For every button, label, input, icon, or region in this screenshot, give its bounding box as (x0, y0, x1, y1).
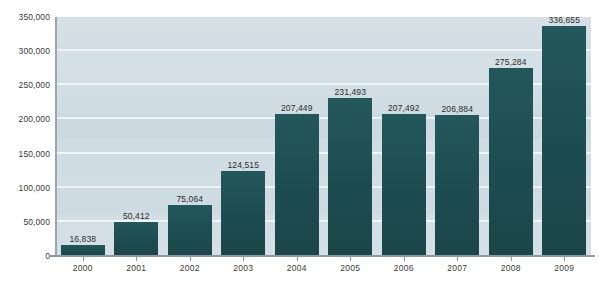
bar-slot (221, 17, 265, 256)
x-axis-tick-label: 2008 (481, 263, 541, 273)
y-axis-tick-label: 100,000 (0, 183, 50, 193)
bar-slot (168, 17, 212, 256)
y-axis-tick-label: 0 (0, 251, 50, 261)
bar[interactable] (435, 115, 479, 256)
bar[interactable] (221, 171, 265, 256)
bar-value-label: 275,284 (476, 57, 546, 67)
bar-value-label: 50,412 (101, 211, 171, 221)
bar-value-label: 16,838 (48, 234, 118, 244)
bar-slot (382, 17, 426, 256)
x-axis-tick-label: 2007 (427, 263, 487, 273)
x-axis-tick (564, 256, 565, 261)
y-axis-tick-label: 200,000 (0, 114, 50, 124)
x-axis-tick (457, 256, 458, 261)
y-axis-line (55, 17, 57, 257)
bar-value-label: 206,884 (422, 104, 492, 114)
x-axis-tick (404, 256, 405, 261)
x-axis-tick-label: 2006 (374, 263, 434, 273)
bar-slot (489, 17, 533, 256)
bar[interactable] (382, 114, 426, 256)
x-axis-tick-label: 2005 (320, 263, 380, 273)
bar-value-label: 336,655 (529, 15, 599, 25)
y-axis-tick-label: 150,000 (0, 149, 50, 159)
x-axis-tick (190, 256, 191, 261)
x-axis-tick-label: 2009 (534, 263, 594, 273)
x-axis-tick (83, 256, 84, 261)
bar-slot (61, 17, 105, 256)
bar[interactable] (275, 114, 319, 256)
chart-title-cropped (56, 0, 526, 2)
y-axis-tick-label: 250,000 (0, 80, 50, 90)
y-axis-tick-label: 350,000 (0, 12, 50, 22)
bar-value-label: 231,493 (315, 87, 385, 97)
bar[interactable] (168, 205, 212, 256)
bar-slot (435, 17, 479, 256)
x-axis-tick (243, 256, 244, 261)
x-axis-tick (297, 256, 298, 261)
x-axis-tick-label: 2002 (160, 263, 220, 273)
x-axis-tick (511, 256, 512, 261)
x-axis-tick (136, 256, 137, 261)
bar[interactable] (489, 68, 533, 256)
x-axis-tick-label: 2000 (53, 263, 113, 273)
x-axis-tick (350, 256, 351, 261)
x-axis-tick-label: 2004 (267, 263, 327, 273)
bar-value-label: 207,449 (262, 103, 332, 113)
bar[interactable] (328, 98, 372, 256)
x-axis-tick-label: 2003 (213, 263, 273, 273)
bar[interactable] (542, 26, 586, 256)
y-axis-tick-label: 50,000 (0, 217, 50, 227)
bar-slot (542, 17, 586, 256)
bar-chart-figure: 050,000100,000150,000200,000250,000300,0… (0, 0, 599, 285)
x-axis-line (50, 255, 595, 257)
bar[interactable] (114, 222, 158, 256)
y-axis-tick-label: 300,000 (0, 46, 50, 56)
y-axis-labels: 050,000100,000150,000200,000250,000300,0… (0, 0, 50, 285)
bar-slot (328, 17, 372, 256)
bar-value-label: 75,064 (155, 194, 225, 204)
bar-slot (275, 17, 319, 256)
bar-value-label: 124,515 (208, 160, 278, 170)
x-axis-tick-label: 2001 (106, 263, 166, 273)
